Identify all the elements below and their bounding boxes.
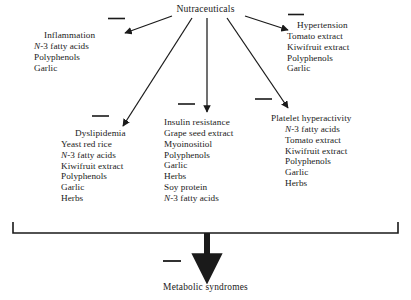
item-text: Polyphenols	[287, 53, 333, 63]
edge-to-dyslipidemia	[123, 18, 192, 126]
list-item: Herbs	[164, 171, 233, 182]
list-item: Kiwifruit extract	[287, 42, 349, 53]
root-node-label: Nutraceuticals	[0, 3, 411, 14]
item-text: Myoinositiol	[164, 139, 212, 149]
list-item: Myoinositiol	[164, 139, 233, 150]
item-text: Polyphenols	[285, 156, 331, 166]
list-item: Polyphenols	[271, 156, 352, 167]
list-item: Tomato extract	[271, 135, 352, 146]
list-item: Polyphenols	[287, 53, 349, 64]
list-item: Herbs	[61, 193, 126, 204]
item-text: -3 fatty acids	[40, 41, 89, 51]
node-insulin-resistance: Insulin resistance Grape seed extract My…	[164, 117, 233, 204]
item-text: Garlic	[34, 63, 57, 73]
node-platelet-hyperactivity-items: N-3 fatty acids Tomato extract Kiwifruit…	[271, 124, 352, 189]
list-item: Soy protein	[164, 182, 233, 193]
list-item: Grape seed extract	[164, 128, 233, 139]
item-text: Tomato extract	[285, 135, 341, 145]
item-text: Kiwifruit extract	[287, 42, 349, 52]
list-item: Garlic	[61, 182, 126, 193]
item-text: -3 fatty acids	[67, 150, 116, 160]
list-item: Polyphenols	[61, 171, 126, 182]
list-item: Polyphenols	[164, 150, 233, 161]
list-item: N-3 fatty acids	[164, 193, 233, 204]
list-item: Yeast red rice	[61, 139, 126, 150]
item-text: Soy protein	[164, 182, 207, 192]
node-dyslipidemia: Dyslipidemia Yeast red rice N-3 fatty ac…	[61, 128, 126, 204]
item-text: Tomato extract	[287, 31, 343, 41]
item-text: Kiwifruit extract	[285, 146, 347, 156]
list-item: Garlic	[287, 63, 349, 74]
item-text: -3 fatty acids	[291, 124, 340, 134]
list-item: N-3 fatty acids	[34, 41, 95, 52]
node-hypertension: Hypertension Tomato extract Kiwifruit ex…	[287, 20, 349, 74]
item-text: Herbs	[164, 171, 186, 181]
list-item: Garlic	[34, 63, 95, 74]
list-item: Garlic	[164, 160, 233, 171]
node-platelet-hyperactivity: Platelet hyperactivity N-3 fatty acids T…	[271, 113, 352, 189]
node-dyslipidemia-title: Dyslipidemia	[61, 128, 126, 139]
node-platelet-hyperactivity-title: Platelet hyperactivity	[271, 113, 352, 124]
node-insulin-resistance-title: Insulin resistance	[164, 117, 233, 128]
collector-bracket	[13, 222, 398, 233]
item-text: Polyphenols	[164, 150, 210, 160]
node-inflammation-title: Inflammation	[34, 30, 95, 41]
edge-to-inflammation	[125, 16, 172, 33]
edge-to-hypertension	[245, 16, 288, 30]
item-text: -3 fatty acids	[170, 193, 219, 203]
list-item: Polyphenols	[34, 52, 95, 63]
list-item: Garlic	[271, 167, 352, 178]
list-item: Tomato extract	[287, 31, 349, 42]
item-text: Kiwifruit extract	[61, 161, 123, 171]
list-item: Kiwifruit extract	[61, 161, 126, 172]
node-inflammation: Inflammation N-3 fatty acids Polyphenols…	[34, 30, 95, 73]
node-hypertension-title: Hypertension	[287, 20, 349, 31]
item-text: Garlic	[285, 167, 308, 177]
node-inflammation-items: N-3 fatty acids Polyphenols Garlic	[34, 41, 95, 74]
diagram-canvas: Nutraceuticals Inflammation N-3 fatty ac…	[0, 0, 411, 300]
item-text: Herbs	[285, 178, 307, 188]
item-text: Yeast red rice	[61, 139, 112, 149]
item-text: Polyphenols	[61, 171, 107, 181]
item-text: Garlic	[287, 63, 310, 73]
list-item: N-3 fatty acids	[61, 150, 126, 161]
item-text: Garlic	[61, 182, 84, 192]
edge-to-platelet-hyperactivity	[227, 18, 288, 108]
node-hypertension-items: Tomato extract Kiwifruit extract Polyphe…	[287, 31, 349, 74]
item-text: Polyphenols	[34, 52, 80, 62]
list-item: N-3 fatty acids	[271, 124, 352, 135]
outcome-node-label: Metabolic syndromes	[0, 282, 411, 292]
node-insulin-resistance-items: Grape seed extract Myoinositiol Polyphen…	[164, 128, 233, 204]
item-text: Garlic	[164, 160, 187, 170]
item-text: Grape seed extract	[164, 128, 233, 138]
item-text: Herbs	[61, 193, 83, 203]
list-item: Kiwifruit extract	[271, 146, 352, 157]
node-dyslipidemia-items: Yeast red rice N-3 fatty acids Kiwifruit…	[61, 139, 126, 204]
list-item: Herbs	[271, 178, 352, 189]
